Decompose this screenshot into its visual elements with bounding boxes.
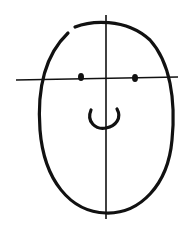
mouth <box>90 109 119 128</box>
right-eye <box>132 74 138 82</box>
face-diagram <box>0 0 188 235</box>
horizontal-guide <box>16 77 178 80</box>
left-eye <box>78 73 84 81</box>
